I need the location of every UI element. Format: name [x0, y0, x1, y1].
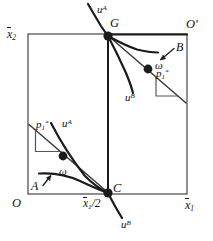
- agent-label-a: A: [31, 180, 38, 192]
- point-label-c: C: [113, 182, 121, 195]
- axis-label-x1: x1: [185, 199, 194, 211]
- diagram-canvas: [0, 0, 213, 241]
- point-g-dot: [103, 31, 112, 40]
- utility-curve-b-lower: [108, 193, 122, 218]
- agent-label-b: B: [176, 41, 183, 53]
- price-line-lower: [29, 125, 109, 194]
- origin-label-b: O': [186, 18, 198, 31]
- midpoint-label-x1-half: x1/2: [83, 198, 101, 210]
- price-label-upper: p1*: [156, 68, 168, 79]
- endowment-dot-upper: [144, 65, 153, 74]
- point-label-g: G: [110, 17, 119, 30]
- endowment-dot-lower: [59, 152, 68, 161]
- price-label-lower: p1*: [36, 119, 48, 130]
- origin-label-a: O: [12, 197, 21, 210]
- utility-label-b-upper: uB: [125, 92, 135, 103]
- utility-label-a-lower: uA: [62, 118, 72, 129]
- endowment-label-lower: ω: [59, 166, 67, 177]
- utility-label-b-lower: uB: [121, 219, 131, 230]
- utility-curve-b-upper: [108, 36, 133, 93]
- utility-label-a-top: uA: [97, 4, 107, 15]
- axis-label-x2: x2: [7, 28, 16, 40]
- edgeworth-box-figure: x2 O O' x1 x1/2 G C A B ω ω uA uA uB uB …: [0, 0, 213, 241]
